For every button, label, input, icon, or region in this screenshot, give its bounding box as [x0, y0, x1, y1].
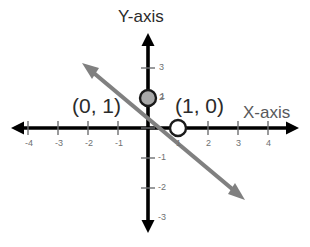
x-axis-arrow-left	[11, 122, 24, 135]
y-axis	[142, 33, 155, 233]
y-axis-arrow-down	[142, 220, 155, 233]
point-marker-1-0	[170, 120, 186, 136]
x-tick-label-4: 4	[266, 139, 271, 148]
y-tick-label-3: 3	[159, 63, 164, 72]
x-axis-title: X-axis	[243, 104, 290, 121]
y-tick-label-1: 1	[160, 92, 165, 101]
x-tick-label--4: -4	[25, 139, 33, 148]
x-tick-label-2: 2	[206, 139, 211, 148]
point-label-0-1: (0, 1)	[72, 95, 121, 116]
x-tick-label--2: -2	[85, 139, 93, 148]
y-axis-title: Y-axis	[118, 8, 164, 25]
x-axis-arrow-right	[286, 122, 299, 135]
plot-area	[0, 0, 310, 247]
point-label-1-0: (1, 0)	[175, 95, 224, 116]
function-line	[82, 63, 245, 200]
x-tick-label-1: 1	[176, 139, 181, 148]
x-tick-label--3: -3	[55, 139, 63, 148]
point-marker-0-1	[140, 90, 156, 106]
coordinate-plane-figure: Y-axis X-axis -4 -3 -2 -1 1 2 3 4 3 2 1 …	[0, 0, 310, 247]
y-tick-label--3: -3	[158, 213, 166, 222]
x-tick-label--1: -1	[115, 139, 123, 148]
y-tick-label--2: -2	[158, 183, 166, 192]
x-tick-label-3: 3	[236, 139, 241, 148]
y-tick-label--1: -1	[158, 153, 166, 162]
y-axis-arrow-up	[142, 33, 155, 46]
